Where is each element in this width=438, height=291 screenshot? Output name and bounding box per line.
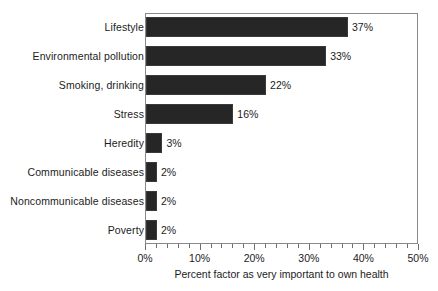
bar-value-label: 3% xyxy=(166,137,181,149)
bar xyxy=(146,220,157,240)
x-axis-minor-tick xyxy=(331,244,332,248)
bar xyxy=(146,162,157,182)
bar-container: 22% xyxy=(146,71,291,100)
x-axis-minor-tick xyxy=(276,244,277,248)
x-axis-minor-tick xyxy=(178,244,179,248)
x-axis-minor-tick xyxy=(352,244,353,248)
x-axis-major-tick xyxy=(418,244,419,250)
x-axis-minor-tick xyxy=(298,244,299,248)
category-label: Stress xyxy=(4,108,144,120)
x-axis-major-tick xyxy=(309,244,310,250)
bar-value-label: 22% xyxy=(270,79,291,91)
bar xyxy=(146,133,162,153)
category-label: Heredity xyxy=(4,137,144,149)
x-axis-tick-label: 30% xyxy=(298,252,319,265)
bar xyxy=(146,17,348,37)
x-axis-minor-tick xyxy=(320,244,321,248)
x-axis-minor-tick xyxy=(407,244,408,248)
x-axis-tick-label: 40% xyxy=(353,252,374,265)
x-axis-major-tick xyxy=(145,244,146,250)
bar xyxy=(146,191,157,211)
x-axis-minor-tick xyxy=(211,244,212,248)
x-axis-minor-tick xyxy=(232,244,233,248)
bar-row: Heredity3% xyxy=(0,129,438,158)
bar-container: 16% xyxy=(146,100,258,129)
x-axis-major-tick xyxy=(254,244,255,250)
bar-container: 2% xyxy=(146,215,176,244)
category-label: Communicable diseases xyxy=(4,166,144,178)
bar-container: 3% xyxy=(146,129,182,158)
bar xyxy=(146,104,233,124)
bar-value-label: 2% xyxy=(161,224,176,236)
x-axis-minor-tick xyxy=(287,244,288,248)
bar-container: 2% xyxy=(146,157,176,186)
bar-value-label: 2% xyxy=(161,195,176,207)
bar-value-label: 16% xyxy=(237,108,258,120)
x-axis-title: Percent factor as very important to own … xyxy=(145,268,418,281)
bar-value-label: 37% xyxy=(352,21,373,33)
bar-row: Noncommunicable diseases2% xyxy=(0,186,438,215)
bar xyxy=(146,46,326,66)
x-axis-ticks xyxy=(145,244,418,252)
x-axis-minor-tick xyxy=(189,244,190,248)
x-axis-minor-tick xyxy=(265,244,266,248)
x-axis-tick-label: 50% xyxy=(407,252,428,265)
x-axis-major-tick xyxy=(363,244,364,250)
x-axis-tick-labels: 0%10%20%30%40%50% xyxy=(0,252,438,266)
x-axis-tick-label: 0% xyxy=(137,252,152,265)
category-label: Environmental pollution xyxy=(4,50,144,62)
x-axis-tick-label: 10% xyxy=(189,252,210,265)
bar-container: 2% xyxy=(146,186,176,215)
bar-chart: Lifestyle37%Environmental pollution33%Sm… xyxy=(0,0,438,291)
x-axis-tick-label: 20% xyxy=(244,252,265,265)
category-label: Noncommunicable diseases xyxy=(4,195,144,207)
bar-row: Stress16% xyxy=(0,100,438,129)
bar-row: Smoking, drinking22% xyxy=(0,71,438,100)
bar-row: Communicable diseases2% xyxy=(0,157,438,186)
category-label: Lifestyle xyxy=(4,21,144,33)
bar-value-label: 2% xyxy=(161,166,176,178)
x-axis-minor-tick xyxy=(374,244,375,248)
category-label: Poverty xyxy=(4,224,144,236)
x-axis-minor-tick xyxy=(243,244,244,248)
bar-row: Poverty2% xyxy=(0,215,438,244)
x-axis-major-tick xyxy=(200,244,201,250)
x-axis-minor-tick xyxy=(396,244,397,248)
x-axis-minor-tick xyxy=(221,244,222,248)
x-axis-minor-tick xyxy=(156,244,157,248)
bar-row: Environmental pollution33% xyxy=(0,42,438,71)
bar-container: 33% xyxy=(146,42,351,71)
bar-rows: Lifestyle37%Environmental pollution33%Sm… xyxy=(0,13,438,244)
x-axis-minor-tick xyxy=(167,244,168,248)
bar-container: 37% xyxy=(146,13,373,42)
bar-row: Lifestyle37% xyxy=(0,13,438,42)
x-axis-minor-tick xyxy=(342,244,343,248)
bar-value-label: 33% xyxy=(330,50,351,62)
x-axis-minor-tick xyxy=(385,244,386,248)
bar xyxy=(146,75,266,95)
category-label: Smoking, drinking xyxy=(4,79,144,91)
